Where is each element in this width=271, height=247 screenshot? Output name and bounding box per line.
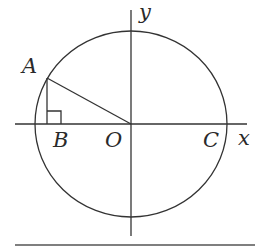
label-C: C (203, 128, 219, 152)
label-B: B (52, 128, 68, 152)
unit-circle-diagram: y x A B O C (0, 0, 271, 247)
label-y: y (138, 0, 152, 24)
label-A: A (20, 54, 37, 78)
label-x: x (238, 126, 250, 150)
label-O: O (105, 128, 122, 152)
segment-AO (47, 78, 131, 124)
right-angle-marker (47, 111, 61, 124)
